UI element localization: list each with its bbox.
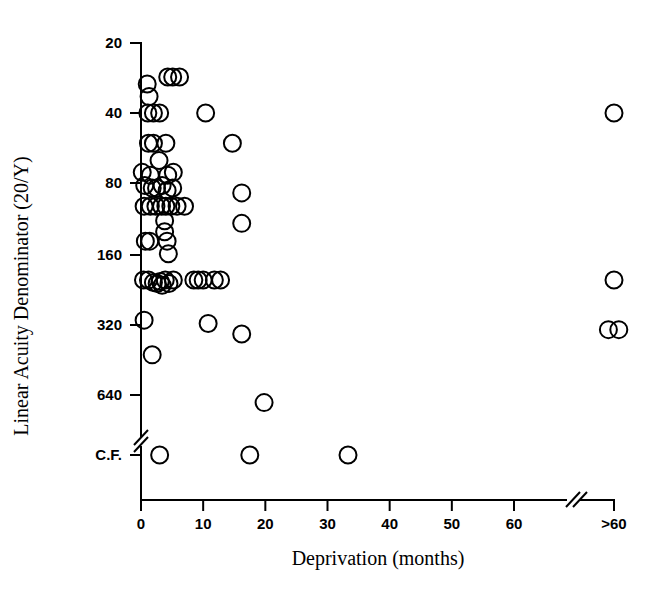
x-axis-title: Deprivation (months) bbox=[292, 547, 465, 570]
x-tick-label-60: 60 bbox=[506, 515, 523, 532]
y-tick-label-640: 640 bbox=[97, 386, 122, 403]
data-point bbox=[340, 447, 357, 464]
y-axis-ticks bbox=[130, 43, 141, 455]
data-point bbox=[606, 272, 623, 289]
data-point bbox=[141, 233, 158, 250]
data-point bbox=[233, 326, 250, 343]
x-axis-tick-labels: 0102030405060>60 bbox=[137, 515, 627, 532]
data-point bbox=[197, 105, 214, 122]
x-tick-label-0: 0 bbox=[137, 515, 145, 532]
data-point bbox=[137, 233, 154, 250]
data-point bbox=[606, 105, 623, 122]
data-point bbox=[256, 394, 273, 411]
y-tick-label-80: 80 bbox=[105, 174, 122, 191]
y-tick-label-40: 40 bbox=[105, 104, 122, 121]
y-axis-title: Linear Acuity Denominator (20/Y) bbox=[10, 156, 33, 435]
data-point-series bbox=[134, 68, 628, 463]
x-tick-label-30: 30 bbox=[319, 515, 336, 532]
y-tick-label-160: 160 bbox=[97, 246, 122, 263]
x-tick-label-40: 40 bbox=[381, 515, 398, 532]
data-point bbox=[157, 135, 174, 152]
data-point bbox=[233, 184, 250, 201]
data-point bbox=[241, 447, 258, 464]
data-point bbox=[141, 88, 158, 105]
y-tick-label-CF: C.F. bbox=[95, 446, 122, 463]
data-point bbox=[600, 321, 617, 338]
data-point bbox=[224, 135, 241, 152]
data-point bbox=[233, 215, 250, 232]
x-tick-label-gt60: >60 bbox=[601, 515, 626, 532]
data-point bbox=[154, 177, 171, 194]
scatter-plot-figure: 204080160320640C.F. 0102030405060>60 Lin… bbox=[0, 0, 656, 592]
y-axis-tick-labels: 204080160320640C.F. bbox=[95, 34, 122, 463]
plot-canvas: 204080160320640C.F. 0102030405060>60 Lin… bbox=[0, 0, 656, 592]
x-tick-label-10: 10 bbox=[195, 515, 212, 532]
x-tick-label-20: 20 bbox=[257, 515, 274, 532]
data-point bbox=[151, 447, 168, 464]
data-point bbox=[144, 346, 161, 363]
x-tick-label-50: 50 bbox=[443, 515, 460, 532]
data-point bbox=[610, 321, 627, 338]
data-point bbox=[136, 312, 153, 329]
data-point bbox=[160, 245, 177, 262]
x-axis-ticks bbox=[141, 500, 614, 511]
y-tick-label-320: 320 bbox=[97, 316, 122, 333]
y-tick-label-20: 20 bbox=[105, 34, 122, 51]
data-point bbox=[200, 315, 217, 332]
